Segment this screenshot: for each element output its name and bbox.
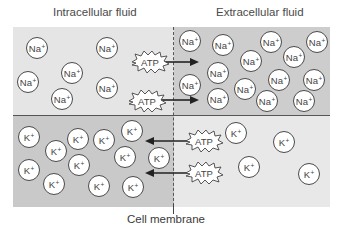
potassium-ion: K+: [67, 128, 89, 150]
sodium-ion: Na+: [293, 90, 315, 112]
potassium-ion: K+: [93, 129, 115, 151]
sodium-ion: Na+: [26, 37, 48, 59]
sodium-ion: Na+: [179, 30, 201, 52]
sodium-ion: Na+: [268, 69, 290, 91]
atp-burst: ATP: [130, 50, 170, 74]
sodium-ion: Na+: [240, 50, 262, 72]
sodium-ion: Na+: [260, 31, 282, 53]
sodium-ion: Na+: [256, 90, 278, 112]
sodium-ion: Na+: [212, 34, 234, 56]
potassium-ion: K+: [43, 173, 65, 195]
potassium-ion: K+: [122, 176, 144, 198]
sodium-ion: Na+: [61, 62, 83, 84]
sodium-ion: Na+: [234, 78, 256, 100]
potassium-ion: K+: [298, 163, 320, 185]
sodium-ion: Na+: [96, 77, 118, 99]
atp-burst: ATP: [184, 129, 224, 153]
sodium-ion: Na+: [179, 74, 201, 96]
potassium-ion: K+: [68, 154, 90, 176]
intracellular-fluid-label: Intracellular fluid: [53, 6, 137, 18]
potassium-ion: K+: [18, 159, 40, 181]
potassium-ion: K+: [238, 156, 260, 178]
sodium-ion: Na+: [283, 46, 305, 68]
potassium-ion: K+: [88, 175, 110, 197]
atp-burst: ATP: [184, 161, 224, 185]
sodium-ion: Na+: [51, 88, 73, 110]
potassium-ion: K+: [18, 126, 40, 148]
sodium-ion: Na+: [306, 31, 328, 53]
potassium-ion: K+: [45, 140, 67, 162]
cell-membrane-line: [173, 27, 174, 211]
potassium-ion: K+: [148, 147, 170, 169]
sodium-ion: Na+: [96, 37, 118, 59]
sodium-ion: Na+: [207, 62, 229, 84]
extracellular-fluid-label: Extracellular fluid: [216, 6, 304, 18]
potassium-ion: K+: [114, 146, 136, 168]
sodium-ion: Na+: [303, 69, 325, 91]
sodium-ion: Na+: [207, 88, 229, 110]
region-divider: [13, 115, 330, 116]
potassium-ion: K+: [121, 120, 143, 142]
potassium-ion: K+: [273, 131, 295, 153]
atp-burst: ATP: [127, 89, 167, 113]
sodium-ion: Na+: [17, 71, 39, 93]
potassium-ion: K+: [225, 122, 247, 144]
cell-membrane-label: Cell membrane: [127, 213, 205, 225]
